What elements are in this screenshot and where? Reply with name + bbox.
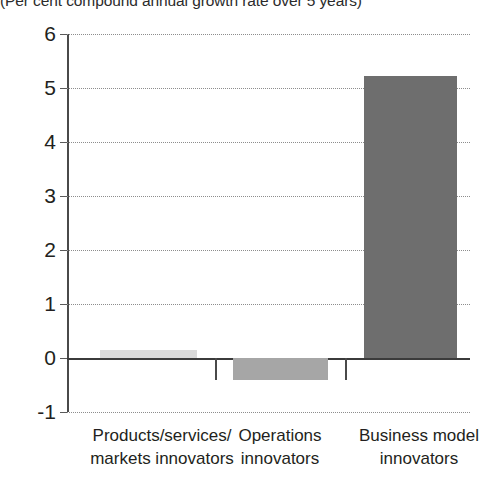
y-axis-label-6: 6 xyxy=(6,23,56,44)
plot-area xyxy=(67,34,470,412)
y-axis-label-0: 0 xyxy=(6,347,56,368)
y-axis-label-2: 2 xyxy=(6,239,56,260)
y-axis-label-5: 5 xyxy=(6,77,56,98)
gridline--1 xyxy=(67,412,470,413)
bar-2[interactable] xyxy=(364,76,457,358)
category-separator-tick-0 xyxy=(215,358,217,380)
bar-1[interactable] xyxy=(233,358,328,380)
y-axis-label-1: 1 xyxy=(6,293,56,314)
x-axis-category-label-2: Business modelinnovators xyxy=(345,424,493,470)
category-label-line: Operations xyxy=(215,424,345,447)
y-tick-mark-4 xyxy=(60,142,67,143)
y-axis-label--1: -1 xyxy=(6,401,56,422)
y-tick-mark-1 xyxy=(60,304,67,305)
gridline-6 xyxy=(67,34,470,35)
y-tick-mark-5 xyxy=(60,88,67,89)
y-tick-mark-6 xyxy=(60,34,67,35)
category-label-line: innovators xyxy=(215,447,345,470)
category-separator-tick-1 xyxy=(345,358,347,380)
y-axis-label-3: 3 xyxy=(6,185,56,206)
y-tick-mark-3 xyxy=(60,196,67,197)
x-axis-category-label-1: Operationsinnovators xyxy=(215,424,345,470)
category-label-line: innovators xyxy=(345,447,493,470)
bar-chart: 6543210-1Products/services/markets innov… xyxy=(0,0,494,495)
y-tick-mark-2 xyxy=(60,250,67,251)
bar-0[interactable] xyxy=(100,350,197,358)
y-tick-mark--1 xyxy=(60,412,67,413)
y-axis-label-4: 4 xyxy=(6,131,56,152)
y-axis-line xyxy=(67,34,69,412)
category-label-line: Business model xyxy=(345,424,493,447)
y-tick-mark-0 xyxy=(60,358,67,359)
